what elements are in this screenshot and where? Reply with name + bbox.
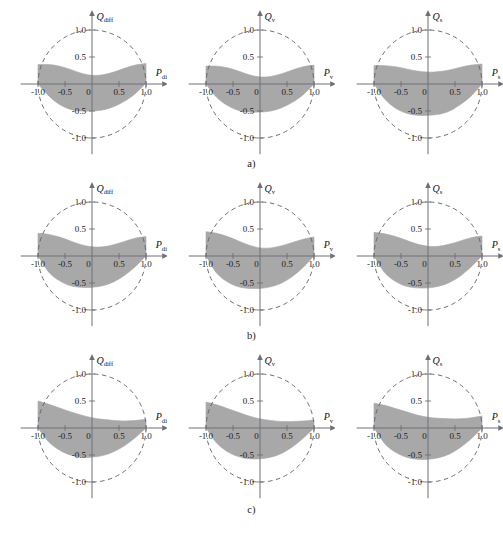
x-tick-label: 0 [86, 259, 91, 269]
x-axis-label: Pdiff [155, 67, 167, 80]
y-axis-label: Qv [265, 183, 276, 196]
x-tick-label: -0.5 [394, 431, 409, 441]
plot-svg-a3: -1.0-0.500.51.01.00.5-0.5-1.0PsQs [336, 0, 503, 170]
x-tick-label: 1.0 [140, 259, 152, 269]
x-tick-label: -0.5 [394, 87, 409, 97]
figure-row-b: -1.0-0.500.51.01.00.5-0.5-1.0PdiffQdiff … [0, 172, 503, 342]
x-tick-label: 1.0 [308, 431, 320, 441]
y-tick-label: 0.5 [411, 52, 423, 62]
plot-panel-b3: -1.0-0.500.51.01.00.5-0.5-1.0PsQs [336, 172, 503, 342]
y-tick-label: 1.0 [75, 25, 87, 35]
x-tick-label: 0 [86, 87, 91, 97]
y-tick-label: -1.0 [72, 133, 87, 143]
y-tick-label: 1.0 [75, 369, 87, 379]
y-axis-label: Qv [265, 11, 276, 24]
x-axis-arrow-icon [498, 425, 503, 431]
y-axis-arrow-icon [257, 182, 263, 188]
plot-panel-b2: -1.0-0.500.51.01.00.5-0.5-1.0PvQv [168, 172, 335, 342]
plot-svg-c2: -1.0-0.500.51.01.00.5-0.5-1.0PvQv [168, 344, 335, 514]
x-axis-label: Ps [491, 239, 501, 252]
plot-svg-c1: -1.0-0.500.51.01.00.5-0.5-1.0PdiffQdiff [0, 344, 167, 514]
plot-svg-b3: -1.0-0.500.51.01.00.5-0.5-1.0PsQs [336, 172, 503, 342]
y-tick-label: 1.0 [411, 369, 423, 379]
x-axis-label: Ps [491, 67, 501, 80]
x-tick-label: -0.5 [58, 259, 73, 269]
x-tick-label: -1.0 [367, 87, 382, 97]
x-tick-label: 1.0 [308, 259, 320, 269]
y-axis-label: Qs [433, 183, 443, 196]
x-tick-label: 0 [254, 259, 259, 269]
x-tick-label: -1.0 [199, 87, 214, 97]
y-tick-label: 1.0 [243, 197, 255, 207]
x-tick-label: -0.5 [58, 431, 73, 441]
x-axis-arrow-icon [498, 81, 503, 87]
x-tick-label: 1.0 [476, 87, 488, 97]
plot-panel-c2: -1.0-0.500.51.01.00.5-0.5-1.0PvQv [168, 344, 335, 514]
y-tick-label: 0.5 [243, 396, 255, 406]
x-tick-label: 0 [86, 431, 91, 441]
y-tick-label: -0.5 [240, 450, 255, 460]
x-axis-arrow-icon [162, 253, 167, 259]
x-tick-label: 1.0 [308, 87, 320, 97]
y-tick-label: 1.0 [411, 25, 423, 35]
y-tick-label: -0.5 [240, 106, 255, 116]
x-axis-arrow-icon [330, 425, 335, 431]
y-tick-label: -1.0 [240, 133, 255, 143]
y-tick-label: 0.5 [243, 224, 255, 234]
x-tick-label: 0.5 [281, 431, 293, 441]
figure-row-c: -1.0-0.500.51.01.00.5-0.5-1.0PdiffQdiff … [0, 344, 503, 514]
x-tick-label: -1.0 [31, 259, 46, 269]
y-tick-label: 0.5 [75, 396, 87, 406]
x-tick-label: 0 [422, 87, 427, 97]
plot-panel-a3: -1.0-0.500.51.01.00.5-0.5-1.0PsQs [336, 0, 503, 170]
plot-svg-a2: -1.0-0.500.51.01.00.5-0.5-1.0PvQv [168, 0, 335, 170]
y-tick-label: -0.5 [408, 106, 423, 116]
y-tick-label: -1.0 [408, 477, 423, 487]
plot-svg-c3: -1.0-0.500.51.01.00.5-0.5-1.0PsQs [336, 344, 503, 514]
y-axis-arrow-icon [425, 182, 431, 188]
y-axis-arrow-icon [89, 354, 95, 360]
x-tick-label: 0.5 [449, 87, 461, 97]
x-axis-arrow-icon [330, 81, 335, 87]
y-tick-label: 1.0 [243, 25, 255, 35]
y-tick-label: -1.0 [408, 133, 423, 143]
x-tick-label: 0.5 [281, 259, 293, 269]
y-tick-label: -1.0 [240, 477, 255, 487]
plot-panel-a1: -1.0-0.500.51.01.00.5-0.5-1.0PdiffQdiff [0, 0, 167, 170]
x-tick-label: -0.5 [226, 431, 241, 441]
y-axis-label: Qs [433, 355, 443, 368]
x-tick-label: 0.5 [113, 431, 125, 441]
y-tick-label: -0.5 [72, 106, 87, 116]
x-axis-label: Pv [323, 411, 334, 424]
y-tick-label: -0.5 [408, 278, 423, 288]
y-axis-arrow-icon [89, 10, 95, 16]
y-tick-label: -0.5 [240, 278, 255, 288]
x-tick-label: -1.0 [31, 431, 46, 441]
y-axis-arrow-icon [425, 354, 431, 360]
x-tick-label: -0.5 [394, 259, 409, 269]
y-tick-label: -1.0 [240, 305, 255, 315]
y-tick-label: -0.5 [72, 450, 87, 460]
plot-svg-a1: -1.0-0.500.51.01.00.5-0.5-1.0PdiffQdiff [0, 0, 167, 170]
x-tick-label: 0 [254, 87, 259, 97]
y-tick-label: -0.5 [408, 450, 423, 460]
y-tick-label: 0.5 [75, 52, 87, 62]
y-axis-arrow-icon [257, 354, 263, 360]
y-tick-label: 0.5 [411, 396, 423, 406]
y-axis-arrow-icon [257, 10, 263, 16]
y-tick-label: 1.0 [243, 369, 255, 379]
y-tick-label: -1.0 [72, 477, 87, 487]
y-tick-label: -1.0 [72, 305, 87, 315]
figure-pq-capability-grid: -1.0-0.500.51.01.00.5-0.5-1.0PdiffQdiff … [0, 0, 503, 558]
x-tick-label: -0.5 [58, 87, 73, 97]
x-tick-label: 0.5 [449, 431, 461, 441]
x-tick-label: 0.5 [113, 87, 125, 97]
x-axis-arrow-icon [162, 425, 167, 431]
y-axis-label: Qv [265, 355, 276, 368]
plot-svg-b1: -1.0-0.500.51.01.00.5-0.5-1.0PdiffQdiff [0, 172, 167, 342]
x-axis-label: Pdiff [155, 411, 167, 424]
x-tick-label: -1.0 [199, 259, 214, 269]
x-tick-label: 0.5 [449, 259, 461, 269]
x-tick-label: 0 [254, 431, 259, 441]
x-tick-label: -0.5 [226, 87, 241, 97]
